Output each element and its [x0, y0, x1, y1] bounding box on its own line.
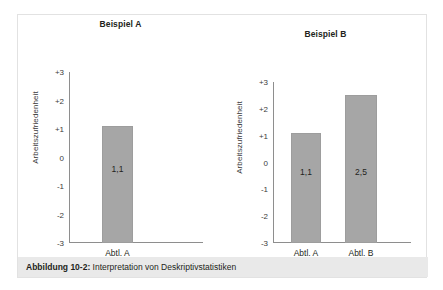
x-axis-line-a	[69, 242, 203, 243]
y-tick-a-5: -2	[57, 210, 64, 219]
y-tick-a-2: +1	[55, 125, 64, 134]
figure-caption: Abbildung 10-2: Interpretation von Deskr…	[26, 262, 236, 272]
figure-caption-label: Abbildung 10-2:	[26, 262, 90, 272]
y-tick-b-4: -1	[261, 185, 268, 194]
charts-area: Beispiel A Arbeitszufriedenheit +3 +2 +1…	[18, 15, 428, 259]
y-axis-line-a	[69, 72, 70, 243]
chart-title-a: Beispiel A	[18, 19, 223, 29]
plot-area-a: +3 +2 +1 0 -1 -2 -3 1,1 Abtl. A	[69, 72, 203, 243]
y-axis-title-b: Arbeitszufriedenheit	[235, 83, 244, 193]
y-tick-a-6: -3	[57, 239, 64, 248]
chart-beispiel-a: Beispiel A Arbeitszufriedenheit +3 +2 +1…	[18, 15, 223, 259]
bar-b-abtl-b: 2,5	[345, 95, 377, 243]
y-tick-b-5: -2	[261, 212, 268, 221]
plot-area-b: +3 +2 +1 0 -1 -2 -3 1,1 2,5 Abtl. A	[273, 82, 411, 243]
bar-value-b-abtl-b: 2,5	[346, 167, 376, 177]
y-tick-b-6: -3	[261, 239, 268, 248]
y-axis-title-a: Arbeitszufriedenheit	[31, 73, 40, 183]
chart-beispiel-b: Beispiel B Arbeitszufriedenheit +3 +2 +1…	[223, 15, 428, 259]
bar-value-a-abtl-a: 1,1	[103, 164, 132, 174]
bar-b-abtl-a: 1,1	[291, 133, 321, 243]
caption-bar: Abbildung 10-2: Interpretation von Deskr…	[18, 257, 428, 277]
y-tick-b-1: +2	[259, 104, 268, 113]
y-tick-b-2: +1	[259, 131, 268, 140]
y-tick-a-4: -1	[57, 182, 64, 191]
y-axis-line-b	[273, 82, 274, 243]
bar-a-abtl-a: 1,1	[102, 126, 133, 243]
figure-caption-body: Interpretation von Deskriptivstatistiken	[90, 262, 236, 272]
bar-value-b-abtl-a: 1,1	[292, 167, 320, 177]
figure-frame: Beispiel A Arbeitszufriedenheit +3 +2 +1…	[17, 14, 427, 278]
y-tick-a-3: 0	[60, 153, 64, 162]
figure-root: Beispiel A Arbeitszufriedenheit +3 +2 +1…	[0, 0, 443, 290]
y-tick-b-3: 0	[264, 158, 268, 167]
y-tick-a-0: +3	[55, 68, 64, 77]
y-tick-a-1: +2	[55, 96, 64, 105]
y-tick-b-0: +3	[259, 78, 268, 87]
chart-title-b: Beispiel B	[223, 29, 428, 39]
